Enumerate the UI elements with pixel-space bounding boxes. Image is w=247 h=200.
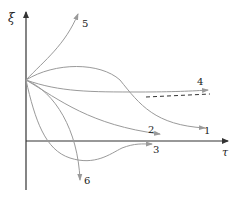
y-axis-label: ξ [8, 11, 16, 25]
curve-1 [26, 67, 205, 129]
curve-4 [26, 80, 208, 92]
curve-3-label: 3 [153, 144, 159, 155]
asymptote-4 [146, 94, 210, 97]
curve-5 [26, 14, 78, 80]
phase-diagram: ξ τ 5 1 4 2 3 6 [0, 0, 247, 200]
curve-6-label: 6 [84, 175, 90, 186]
curve-6 [26, 80, 80, 180]
x-axis-label: τ [222, 146, 229, 159]
curve-1-label: 1 [204, 125, 210, 136]
curve-5-label: 5 [82, 18, 88, 29]
curve-2-label: 2 [148, 124, 154, 135]
curve-4-label: 4 [197, 76, 203, 87]
curve-2 [26, 80, 160, 134]
